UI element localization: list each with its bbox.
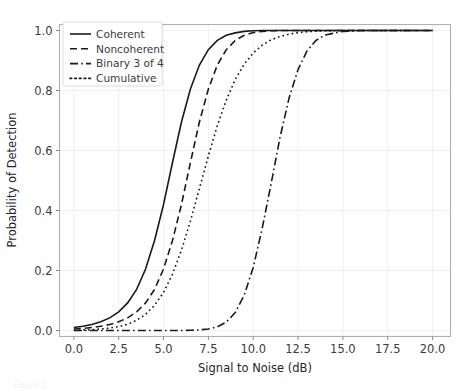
legend-label-coherent: Coherent	[96, 28, 145, 40]
legend-label-binary-3-of-4: Binary 3 of 4	[96, 57, 164, 69]
x-tick-label: 20.0	[420, 342, 446, 356]
legend-label-cumulative: Cumulative	[96, 72, 156, 84]
x-tick-label: 17.5	[375, 342, 401, 356]
y-tick-label: 1.0	[34, 24, 52, 38]
legend-label-noncoherent: Noncoherent	[96, 43, 164, 55]
y-tick-label: 0.6	[34, 144, 52, 158]
x-tick-label: 5.0	[154, 342, 172, 356]
x-tick-label: 7.5	[199, 342, 217, 356]
y-tick-label: 0.4	[34, 204, 52, 218]
y-axis-label: Probability of Detection	[5, 112, 19, 247]
figure-caption: Figure 1.	[14, 381, 49, 390]
chart-legend[interactable]: CoherentNoncoherentBinary 3 of 4Cumulati…	[63, 22, 164, 86]
y-tick-label: 0.2	[34, 264, 52, 278]
x-tick-label: 15.0	[330, 342, 356, 356]
figure-container: 0.02.55.07.510.012.515.017.520.0 0.00.20…	[0, 0, 470, 391]
y-tick-label: 0.0	[34, 324, 52, 338]
y-tick-label: 0.8	[34, 84, 52, 98]
x-tick-label: 12.5	[285, 342, 311, 356]
x-tick-label: 2.5	[110, 342, 128, 356]
x-tick-label: 0.0	[65, 342, 83, 356]
x-axis-label: Signal to Noise (dB)	[198, 361, 312, 375]
x-tick-label: 10.0	[240, 342, 266, 356]
detection-probability-chart: 0.02.55.07.510.012.515.017.520.0 0.00.20…	[0, 0, 470, 391]
